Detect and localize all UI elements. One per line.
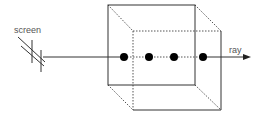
screen-label: screen [14,25,41,35]
ray-casting-diagram: screen ray [0,0,261,115]
sample-point [145,53,153,61]
cube-back-face [133,31,221,110]
ray-label: ray [229,45,242,55]
screen-icon [18,37,45,72]
sample-point [170,53,178,61]
sample-point [120,53,128,61]
cube-front-face [108,5,195,85]
arrow-head-icon [243,54,251,60]
sample-point [199,53,207,61]
